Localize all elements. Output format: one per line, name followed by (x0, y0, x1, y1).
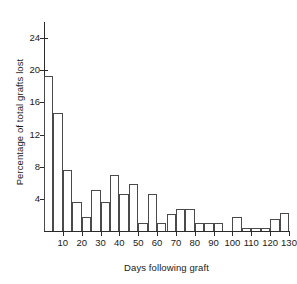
x-tick-label-30: 30 (95, 237, 106, 249)
x-tick-label-130: 130 (281, 237, 297, 249)
bar-35-40 (110, 175, 119, 231)
x-tick-label-90: 90 (208, 237, 219, 249)
bar-100-105 (232, 217, 241, 231)
bar-115-120 (261, 228, 270, 231)
x-tick-mark (119, 231, 120, 236)
y-tick-label: 20 (29, 63, 40, 76)
x-tick-label-120: 120 (262, 237, 278, 249)
plot-area: 4812162024 10203040506070809010011012013… (44, 22, 289, 232)
bar-45-50 (129, 184, 138, 231)
bar-120-125 (270, 219, 279, 231)
x-tick-mark (176, 231, 177, 236)
bar-65-70 (167, 214, 176, 231)
y-tick-mark (40, 38, 48, 39)
x-tick-label-80: 80 (189, 237, 200, 249)
bar-75-80 (185, 209, 194, 231)
y-tick-label: 24 (29, 31, 40, 44)
bar-30-35 (101, 202, 110, 231)
bar-60-65 (157, 223, 166, 231)
x-tick-mark (232, 231, 233, 236)
y-tick-label: 12 (29, 128, 40, 141)
x-tick-label-50: 50 (133, 237, 144, 249)
x-tick-label-10: 10 (58, 237, 69, 249)
bar-70-75 (176, 209, 185, 231)
x-tick-mark (214, 231, 215, 236)
x-tick-label-70: 70 (171, 237, 182, 249)
bar-10-15 (63, 170, 72, 231)
bar-85-90 (204, 223, 213, 231)
x-tick-label-40: 40 (114, 237, 125, 249)
x-tick-label-100: 100 (225, 237, 241, 249)
chart-figure: Percentage of total grafts lost 48121620… (0, 0, 297, 284)
y-tick-label: 16 (29, 95, 40, 108)
bar-20-25 (82, 217, 91, 231)
x-axis-title: Days following graft (44, 262, 289, 273)
x-tick-label-110: 110 (244, 237, 259, 249)
bar-5-10 (53, 113, 62, 231)
x-tick-mark (138, 231, 139, 236)
x-tick-mark (101, 231, 102, 236)
x-tick-mark (195, 231, 196, 236)
bar-15-20 (72, 202, 81, 231)
y-tick-label: 4 (35, 192, 40, 205)
x-tick-mark (82, 231, 83, 236)
bar-125-130 (280, 213, 289, 231)
x-tick-label-20: 20 (76, 237, 87, 249)
x-tick-mark (157, 231, 158, 236)
x-tick-mark (251, 231, 252, 236)
bar-50-55 (138, 223, 147, 231)
y-tick-label: 8 (35, 160, 40, 173)
y-axis-title: Percentage of total grafts lost (14, 22, 28, 222)
bar-90-95 (214, 223, 223, 231)
bar-110-115 (251, 228, 260, 231)
x-tick-mark (289, 231, 290, 236)
bar-40-45 (119, 194, 128, 231)
bar-55-60 (148, 194, 157, 231)
bar-105-110 (242, 228, 251, 231)
x-tick-label-60: 60 (152, 237, 163, 249)
bar-0-5 (44, 76, 53, 231)
bar-80-85 (195, 223, 204, 231)
bar-25-30 (91, 190, 100, 231)
y-tick-mark (40, 70, 48, 71)
x-tick-mark (63, 231, 64, 236)
x-tick-mark (270, 231, 271, 236)
